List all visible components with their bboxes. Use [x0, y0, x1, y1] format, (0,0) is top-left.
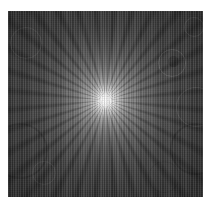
bokeh-disc-i — [148, 161, 180, 193]
image-canvas — [0, 0, 211, 205]
bokeh-disc-a — [158, 49, 186, 77]
bokeh-disc-e — [8, 123, 48, 179]
bokeh-disc-g — [184, 17, 203, 37]
background-field — [8, 11, 203, 197]
bokeh-disc-d — [170, 123, 203, 175]
bokeh-disc-h — [32, 161, 56, 185]
halftone-jitter-texture — [8, 11, 203, 197]
edge-vignette — [8, 11, 203, 197]
vertical-halftone-texture — [8, 11, 203, 197]
bokeh-disc-f — [10, 27, 42, 59]
starburst-image-plate — [8, 11, 203, 197]
hotspot-core-wash — [8, 11, 203, 197]
horizontal-grain-texture — [8, 11, 203, 197]
bokeh-disc-b — [168, 56, 179, 67]
center-glow-gradient — [8, 11, 203, 197]
radial-ray-fan — [8, 11, 203, 197]
bokeh-disc-c — [176, 87, 203, 127]
